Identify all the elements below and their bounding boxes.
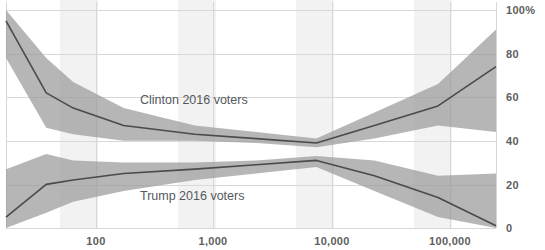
y-axis-label-80: 80 <box>506 48 519 60</box>
clinton-series-label: Clinton 2016 voters <box>140 93 248 107</box>
trump-series-label: Trump 2016 voters <box>140 189 244 203</box>
y-axis-tick-labels: 100%806040200 <box>506 4 535 234</box>
y-axis-label-0: 0 <box>506 222 512 234</box>
x-axis-label-10000: 10,000 <box>314 235 349 247</box>
y-axis-label-20: 20 <box>506 179 519 191</box>
x-axis-label-100: 100 <box>86 235 105 247</box>
y-axis-label-100: 100% <box>506 4 535 16</box>
voter-turnout-line-chart: 100%806040200 1001,00010,000100,000 Clin… <box>0 0 545 250</box>
y-axis-label-40: 40 <box>506 135 519 147</box>
y-axis-label-60: 60 <box>506 91 519 103</box>
x-axis-tick-labels: 1001,00010,000100,000 <box>86 235 471 247</box>
x-axis-label-100000: 100,000 <box>429 235 471 247</box>
x-axis-label-1000: 1,000 <box>198 235 227 247</box>
chart-container: 100%806040200 1001,00010,000100,000 Clin… <box>0 0 545 250</box>
